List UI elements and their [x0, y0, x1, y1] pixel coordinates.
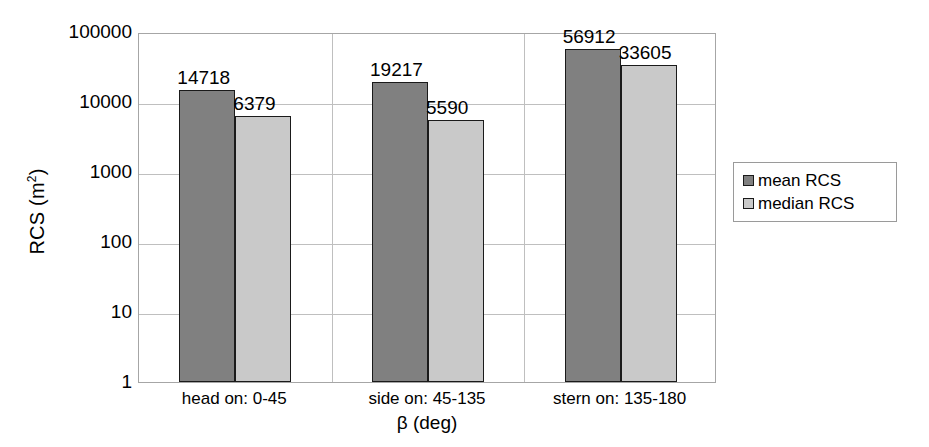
x-axis-title: β (deg) [138, 412, 716, 434]
y-axis-tick-label: 1000 [30, 161, 132, 183]
bar-median [621, 65, 677, 382]
bar-value-label: 56912 [563, 26, 616, 48]
bar-value-label: 14718 [177, 67, 230, 89]
bar-median [428, 120, 484, 382]
y-axis-tick-label: 100000 [30, 21, 132, 43]
plot-area: 1471863791921755905691233605 [138, 33, 716, 383]
legend-item-label: median RCS [758, 194, 854, 214]
vertical-gridline [524, 34, 525, 382]
bar-mean [179, 90, 235, 382]
x-axis-category-label: head on: 0-45 [138, 389, 331, 409]
y-axis-tick-label: 10000 [30, 91, 132, 113]
bar-value-label: 19217 [370, 59, 423, 81]
y-axis-tick-label: 1 [30, 371, 132, 393]
x-axis-category-label: side on: 45-135 [331, 389, 524, 409]
vertical-gridline [332, 34, 333, 382]
y-axis-tick-label: 100 [30, 231, 132, 253]
bar-median [235, 116, 291, 382]
bar-mean [372, 82, 428, 382]
legend-swatch-median-icon [743, 198, 754, 209]
bar-mean [565, 49, 621, 382]
bar-value-label: 33605 [619, 42, 672, 64]
bar-chart: RCS (m2) 100000100001000100101 147186379… [0, 0, 929, 447]
bar-value-label: 6379 [233, 93, 275, 115]
y-axis-tick-label: 10 [30, 301, 132, 323]
y-axis-tick-labels: 100000100001000100101 [30, 0, 132, 447]
x-axis-category-label: stern on: 135-180 [523, 389, 716, 409]
legend-item-label: mean RCS [758, 171, 841, 191]
chart-legend: mean RCSmedian RCS [733, 162, 897, 222]
bar-value-label: 5590 [426, 97, 468, 119]
legend-swatch-mean-icon [743, 175, 754, 186]
legend-item-median[interactable]: median RCS [743, 192, 896, 215]
legend-item-mean[interactable]: mean RCS [743, 169, 896, 192]
